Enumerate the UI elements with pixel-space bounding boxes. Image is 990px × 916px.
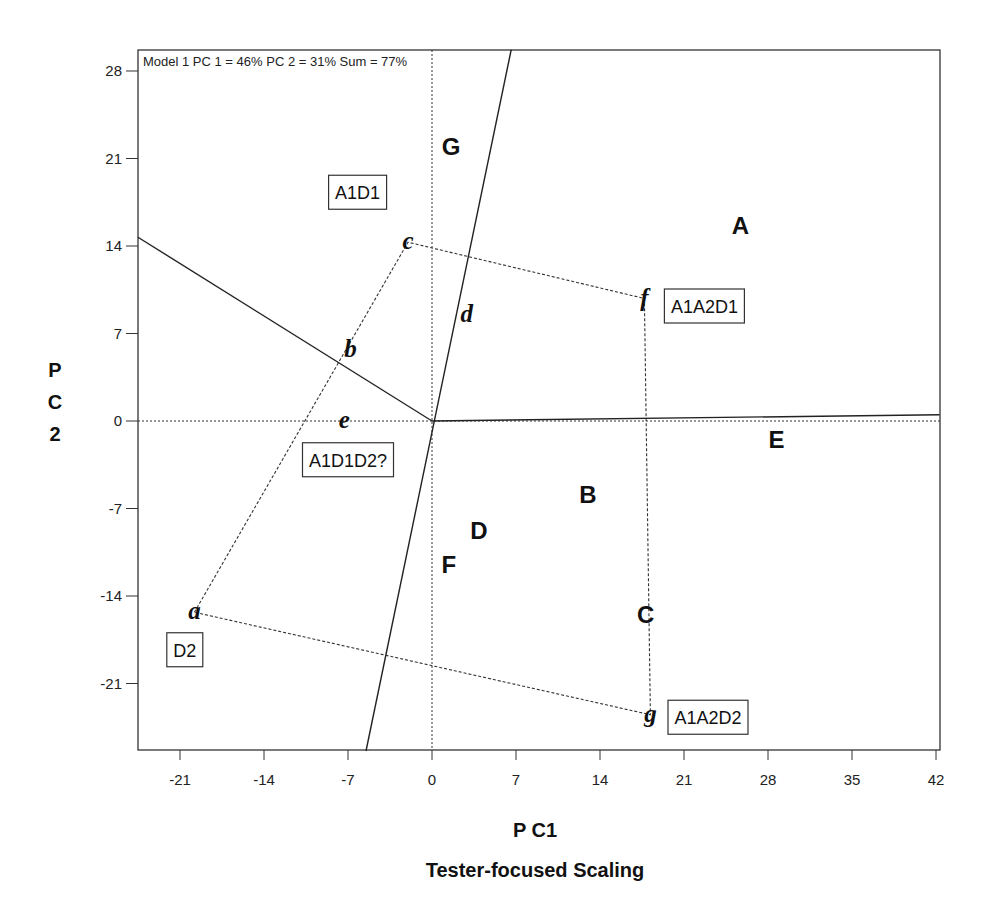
solid-line [366, 50, 511, 751]
label-text: A1D1D2? [309, 451, 387, 471]
plot-border [138, 50, 940, 750]
label-text: A1A2D1 [671, 297, 738, 317]
y-tick-label: -21 [100, 675, 122, 692]
x-tick-label: 28 [760, 771, 777, 788]
object-label-f: F [441, 551, 456, 578]
object-label-g: G [442, 133, 461, 160]
object-label-d: D [470, 517, 487, 544]
y-axis-title-line3: 2 [49, 423, 60, 445]
y-tick-label: 14 [105, 237, 122, 254]
x-tick-label: 21 [676, 771, 693, 788]
y-axis-title-line1: P [48, 359, 61, 381]
y-tick-label: -14 [100, 587, 122, 604]
boxed-label: A1D1D2? [303, 443, 394, 477]
x-tick-label: -14 [253, 771, 275, 788]
y-axis-ticks: 28211470-7-14-21 [100, 62, 138, 692]
y-axis-title: P C 2 [48, 359, 62, 445]
x-axis-ticks: -21-14-7071421283542 [169, 750, 944, 788]
attribute-label-g: g [643, 700, 657, 727]
object-label-c: C [637, 601, 654, 628]
y-tick-label: 21 [105, 150, 122, 167]
attribute-label-e: e [339, 406, 350, 433]
x-tick-label: 35 [844, 771, 861, 788]
y-axis-title-line2: C [48, 391, 62, 413]
label-text: A1A2D2 [674, 708, 741, 728]
attribute-label-f: f [640, 284, 651, 311]
chart-title: Tester-focused Scaling [426, 859, 645, 881]
x-tick-label: 7 [512, 771, 520, 788]
plot-frame [138, 50, 940, 750]
x-tick-label: -7 [341, 771, 354, 788]
x-axis-title: P C1 [513, 819, 557, 841]
x-tick-label: -21 [169, 771, 191, 788]
x-tick-label: 0 [428, 771, 436, 788]
pca-biplot: -21-14-7071421283542 28211470-7-14-21 AB… [0, 0, 990, 916]
y-tick-label: 7 [114, 325, 122, 342]
reference-lines [138, 50, 940, 750]
model-summary: Model 1 PC 1 = 46% PC 2 = 31% Sum = 77% [143, 54, 408, 69]
object-label-a: A [732, 212, 749, 239]
object-label-b: B [579, 481, 596, 508]
solid-axis-lines [138, 50, 940, 751]
y-tick-label: 28 [105, 62, 122, 79]
object-label-e: E [768, 426, 784, 453]
boxed-label: A1A2D2 [668, 700, 748, 734]
x-tick-label: 14 [592, 771, 609, 788]
y-tick-label: -7 [109, 500, 122, 517]
y-tick-label: 0 [114, 412, 122, 429]
attribute-label-b: b [344, 335, 357, 362]
label-text: A1D1 [335, 183, 380, 203]
label-text: D2 [173, 641, 196, 661]
boxed-label: D2 [167, 633, 203, 667]
attribute-label-c: c [402, 227, 413, 254]
attribute-label-a: a [188, 597, 201, 624]
solid-line [432, 415, 940, 421]
boxed-label: A1A2D1 [664, 289, 744, 323]
x-tick-label: 42 [928, 771, 945, 788]
attribute-label-d: d [461, 300, 474, 327]
boxed-labels: A1D1A1A2D1A1D1D2?D2A1A2D2 [167, 175, 748, 734]
boxed-label: A1D1 [329, 175, 387, 209]
object-points: ABCDEFG [441, 133, 784, 628]
solid-line [138, 237, 432, 421]
